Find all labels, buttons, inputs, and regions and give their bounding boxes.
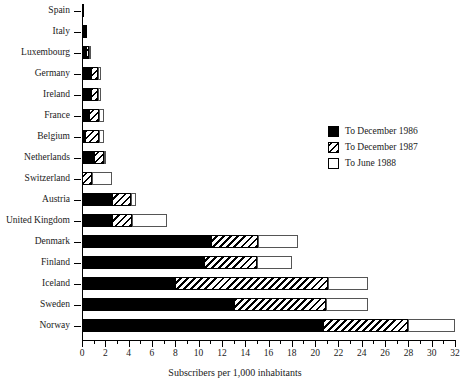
- category-label: Sweden: [40, 299, 70, 310]
- bar-segment: [131, 193, 136, 206]
- category-label: Austria: [42, 194, 70, 205]
- category-label: Netherlands: [24, 152, 70, 163]
- bar-segment: [112, 193, 131, 206]
- category-tick: [74, 11, 81, 12]
- value-tick-label: 20: [305, 348, 325, 359]
- bar-segment: [85, 130, 100, 143]
- value-tick-minor: [164, 340, 165, 344]
- value-tick-major: [269, 340, 270, 347]
- category-tick: [74, 305, 81, 306]
- bar-segment: [82, 319, 323, 332]
- bar-segment: [99, 130, 103, 143]
- category-label: Finland: [41, 257, 70, 268]
- bar-segment: [92, 172, 112, 185]
- value-tick-minor: [187, 340, 188, 344]
- value-tick-minor: [373, 340, 374, 344]
- chart-legend: To December 1986To December 1987To June …: [328, 124, 418, 172]
- value-tick-major: [362, 340, 363, 347]
- bar-segment: [112, 214, 132, 227]
- legend-label: To December 1987: [345, 142, 418, 152]
- category-label: Iceland: [42, 278, 70, 289]
- value-tick-minor: [257, 340, 258, 344]
- value-tick-major: [385, 340, 386, 347]
- category-tick: [74, 326, 81, 327]
- value-tick-label: 24: [352, 348, 372, 359]
- bar-segment: [82, 256, 204, 269]
- value-tick-major: [408, 340, 409, 347]
- category-tick: [74, 242, 81, 243]
- value-tick-label: 6: [142, 348, 162, 359]
- value-tick-label: 28: [398, 348, 418, 359]
- category-label: Denmark: [35, 236, 70, 247]
- category-tick: [74, 137, 81, 138]
- value-tick-minor: [94, 340, 95, 344]
- category-label: Spain: [48, 5, 70, 16]
- bar-segment: [175, 277, 328, 290]
- category-tick: [74, 200, 81, 201]
- value-tick-label: 12: [212, 348, 232, 359]
- bar-segment: [408, 319, 455, 332]
- legend-item: To June 1988: [328, 156, 418, 170]
- value-tick-label: 30: [422, 348, 442, 359]
- category-label: United Kingdom: [6, 215, 70, 226]
- value-tick-label: 18: [282, 348, 302, 359]
- value-tick-major: [245, 340, 246, 347]
- value-tick-label: 16: [259, 348, 279, 359]
- value-tick-minor: [140, 340, 141, 344]
- legend-item: To December 1987: [328, 140, 418, 154]
- value-tick-major: [222, 340, 223, 347]
- value-tick-label: 4: [119, 348, 139, 359]
- value-tick-major: [129, 340, 130, 347]
- bar-segment: [91, 67, 99, 80]
- value-tick-label: 2: [95, 348, 115, 359]
- category-tick: [74, 221, 81, 222]
- value-tick-label: 0: [72, 348, 92, 359]
- value-tick-label: 22: [328, 348, 348, 359]
- category-label: Ireland: [43, 89, 70, 100]
- bar-segment: [98, 88, 101, 101]
- value-tick-major: [82, 340, 83, 347]
- bar-segment: [94, 151, 104, 164]
- value-tick-major: [152, 340, 153, 347]
- solid-black-swatch: [328, 126, 339, 137]
- category-tick: [74, 179, 81, 180]
- value-tick-label: 14: [235, 348, 255, 359]
- bar-segment: [91, 88, 99, 101]
- category-tick: [74, 53, 81, 54]
- legend-label: To June 1988: [345, 158, 396, 168]
- category-label: Belgium: [37, 131, 70, 142]
- bar-segment: [82, 193, 112, 206]
- bar-segment: [204, 256, 256, 269]
- value-tick-label: 26: [375, 348, 395, 359]
- value-tick-minor: [234, 340, 235, 344]
- bar-segment: [82, 151, 94, 164]
- bar-segment: [82, 235, 211, 248]
- value-tick-major: [199, 340, 200, 347]
- bar-segment: [323, 319, 408, 332]
- bar-segment: [132, 214, 167, 227]
- bar-segment: [82, 109, 89, 122]
- mobile-subscribers-bar-chart: SpainItalyLuxembourgGermanyIrelandFrance…: [0, 0, 470, 385]
- bar-segment: [82, 298, 234, 311]
- bar-segment: [258, 235, 298, 248]
- bar-segment: [82, 277, 175, 290]
- value-tick-minor: [303, 340, 304, 344]
- category-label: Switzerland: [25, 173, 70, 184]
- bar-segment: [89, 46, 91, 59]
- category-axis-labels: SpainItalyLuxembourgGermanyIrelandFrance…: [0, 4, 70, 340]
- value-tick-major: [432, 340, 433, 347]
- bar-segment: [82, 214, 112, 227]
- bar-segment: [234, 298, 326, 311]
- value-tick-major: [175, 340, 176, 347]
- category-tick: [74, 158, 81, 159]
- value-tick-major: [338, 340, 339, 347]
- category-tick: [74, 263, 81, 264]
- value-tick-major: [315, 340, 316, 347]
- value-axis-title: Subscribers per 1,000 inhabitants: [0, 367, 470, 378]
- value-tick-minor: [420, 340, 421, 344]
- bar-segment: [82, 88, 91, 101]
- category-tick: [74, 74, 81, 75]
- value-tick-label: 10: [189, 348, 209, 359]
- category-tick: [74, 32, 81, 33]
- value-tick-label: 8: [165, 348, 185, 359]
